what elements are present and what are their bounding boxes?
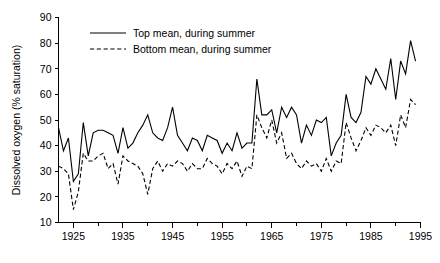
y-tick-label: 20 <box>40 191 52 203</box>
x-tick-label: 1925 <box>62 230 86 242</box>
y-tick-label: 10 <box>40 216 52 228</box>
y-axis-title-text: Dissolved oxygen (% saturation) <box>10 45 22 196</box>
y-tick-label: 70 <box>40 63 52 75</box>
x-tick-label: 1985 <box>359 230 383 242</box>
x-tick-label: 1935 <box>111 230 135 242</box>
x-tick-label: 1975 <box>310 230 334 242</box>
y-tick-label: 50 <box>40 114 52 126</box>
y-axis-title: Dissolved oxygen (% saturation) <box>10 45 22 196</box>
series-line-bottom-mean <box>59 100 416 210</box>
series-line-top-mean <box>59 41 416 182</box>
chart-legend: Top mean, during summerBottom mean, duri… <box>90 27 272 55</box>
x-tick-label: 1965 <box>260 230 284 242</box>
y-tick-label: 80 <box>40 37 52 49</box>
series-lines <box>59 41 416 210</box>
legend-label-top-mean: Top mean, during summer <box>133 27 255 39</box>
x-tick-label: 1995 <box>409 230 433 242</box>
y-tick-label: 90 <box>40 11 52 23</box>
legend-label-bottom-mean: Bottom mean, during summer <box>133 43 272 55</box>
y-tick-label: 60 <box>40 88 52 100</box>
y-tick-label: 30 <box>40 165 52 177</box>
line-chart: 102030405060708090 192519351945195519651… <box>0 0 440 263</box>
x-tick-label: 1945 <box>161 230 185 242</box>
x-tick-label: 1955 <box>210 230 234 242</box>
y-tick-label: 40 <box>40 139 52 151</box>
y-axis: 102030405060708090 <box>40 11 59 228</box>
chart-figure: 102030405060708090 192519351945195519651… <box>0 0 440 263</box>
x-axis: 19251935194519551965197519851995 <box>59 223 433 242</box>
